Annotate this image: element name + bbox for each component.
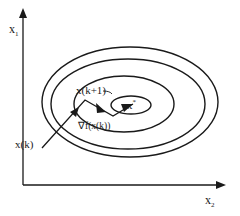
label-current-point: x(k) <box>15 138 34 151</box>
x-axis-label: x2 <box>205 193 215 209</box>
x-axis-arrow-icon <box>216 181 226 189</box>
y-axis-label: x1 <box>9 22 19 38</box>
gradient-descent-diagram: x1 x2 x(k+1) x(k) ∇f(x(k)) x* <box>0 0 240 216</box>
label-gradient: ∇f(x(k)) <box>77 121 110 132</box>
label-optimum: x* <box>127 98 137 111</box>
axes <box>19 8 226 189</box>
label-next-point: x(k+1) <box>76 84 106 97</box>
step-arrow-icon <box>96 103 106 113</box>
y-axis-arrow-icon <box>19 8 27 18</box>
